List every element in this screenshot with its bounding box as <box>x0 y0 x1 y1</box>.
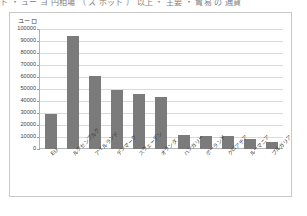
x-label-slot: スウェーデン <box>128 151 150 197</box>
bar-slot <box>40 29 62 149</box>
plot-wrapper: ユーロ 100000900008000070000600005000040000… <box>10 13 291 196</box>
y-tick-mark <box>37 149 40 150</box>
y-tick-label: 0 <box>33 146 36 152</box>
y-tick-label: 100000 <box>17 26 36 32</box>
x-label-slot: ハンガリー <box>173 151 195 197</box>
bar-slot <box>173 29 195 149</box>
y-tick-label: 10000 <box>20 134 36 140</box>
y-tick-label: 80000 <box>20 50 36 56</box>
bar-slot <box>62 29 84 149</box>
clipped-header-text: ト ・ ュー ヨ 円相場 （ ス ポット ） 以上 ・ 主要 ・ 貿易 の 通貨 <box>0 0 307 6</box>
y-tick-label: 60000 <box>20 74 36 80</box>
bars-layer <box>40 29 283 149</box>
x-label-slot: オランダ <box>150 151 172 197</box>
bar-slot <box>106 29 128 149</box>
x-label-slot: ルーマニア <box>239 151 261 197</box>
y-tick-label: 90000 <box>20 38 36 44</box>
y-tick-label: 20000 <box>20 122 36 128</box>
bar-slot <box>261 29 283 149</box>
bar-slot <box>217 29 239 149</box>
bar-slot <box>239 29 261 149</box>
bar-slot <box>150 29 172 149</box>
x-label-slot: EU <box>40 151 62 197</box>
x-label-slot: デンマーク <box>106 151 128 197</box>
bar-slot <box>128 29 150 149</box>
bar-slot <box>195 29 217 149</box>
y-tick-label: 40000 <box>20 98 36 104</box>
x-label-slot: ルクセンブルク <box>62 151 84 197</box>
bar[interactable] <box>67 36 79 149</box>
chart-figure: ユーロ 100000900008000070000600005000040000… <box>9 12 292 197</box>
x-label-slot: ポーランド <box>195 151 217 197</box>
y-tick-label: 70000 <box>20 62 36 68</box>
y-tick-label: 30000 <box>20 110 36 116</box>
x-axis-labels: EUルクセンブルクアイルランドデンマークスウェーデンオランダハンガリーポーランド… <box>40 151 283 197</box>
bar[interactable] <box>45 114 57 149</box>
x-label-slot: クロアチア <box>217 151 239 197</box>
x-label-slot: アイルランド <box>84 151 106 197</box>
y-axis-title: ユーロ <box>18 16 37 25</box>
y-tick-label: 50000 <box>20 86 36 92</box>
plot-area: 1000009000080000700006000050000400003000… <box>40 29 283 149</box>
x-label-slot: ブルガリア <box>261 151 283 197</box>
